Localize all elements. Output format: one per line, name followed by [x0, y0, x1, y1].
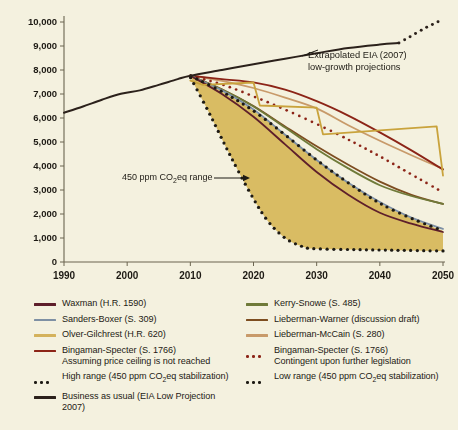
legend-label: Waxman (H.R. 1590) [62, 298, 146, 309]
legend-dot [34, 381, 37, 384]
legend-dot [258, 355, 261, 358]
legend-line-swatch [246, 315, 268, 327]
legend-dotted-swatch [246, 372, 268, 389]
legend-label: High range (450 ppm CO2eq stabilization) [62, 371, 229, 385]
emissions-line-chart [0, 0, 458, 292]
legend-item-lieberman-warner[interactable]: Lieberman-Warner (discussion draft) [246, 314, 456, 326]
legend-line-swatch [34, 315, 56, 327]
legend-label: Lieberman-McCain (S. 280) [274, 329, 384, 340]
legend-label: Business as usual (EIA Low Projection 20… [62, 391, 239, 414]
legend-left-column: Waxman (H.R. 1590)Sanders-Boxer (S. 309)… [34, 298, 239, 417]
emissions-figure: U.S. annual emissions (mmt CO2eq) Extrap… [0, 0, 458, 430]
legend-dotted-swatch [34, 372, 56, 389]
legend-item-olver-gilchrest[interactable]: Olver-Gilchrest (H.R. 620) [34, 329, 239, 341]
range-annotation: 450 ppm CO2eq range [122, 171, 212, 187]
legend-item-sanders-boxer[interactable]: Sanders-Boxer (S. 309) [34, 314, 239, 326]
legend-dot [252, 355, 255, 358]
legend-dot [252, 381, 255, 384]
legend-dot [40, 381, 43, 384]
chart-legend: Waxman (H.R. 1590)Sanders-Boxer (S. 309)… [0, 294, 458, 412]
legend-item-waxman[interactable]: Waxman (H.R. 1590) [34, 298, 239, 310]
legend-dot [246, 381, 249, 384]
annotation-line-1: Extrapolated EIA (2007) [308, 49, 407, 61]
legend-line [34, 334, 56, 337]
legend-dot [258, 381, 261, 384]
legend-item-kerry-snowe[interactable]: Kerry-Snowe (S. 485) [246, 298, 456, 310]
legend-line-swatch [246, 330, 268, 342]
legend-label: Kerry-Snowe (S. 485) [274, 298, 360, 309]
legend-item-bingaman-specter-ceiling[interactable]: Bingaman-Specter (S. 1766)Assuming price… [34, 345, 239, 368]
legend-label: Low range (450 ppm CO2eq stabilization) [274, 371, 439, 385]
legend-item-business-as-usual[interactable]: Business as usual (EIA Low Projection 20… [34, 391, 239, 414]
legend-dotted-swatch [246, 346, 268, 363]
legend-sublabel: Contingent upon further legislation [274, 356, 411, 367]
legend-line [246, 334, 268, 337]
legend-label: Bingaman-Specter (S. 1766)Contingent upo… [274, 345, 411, 368]
annotation-line-2: low-growth projections [308, 61, 407, 73]
legend-label: Sanders-Boxer (S. 309) [62, 314, 156, 325]
legend-line [246, 319, 268, 322]
legend-line [34, 319, 56, 322]
legend-line-swatch [34, 392, 56, 404]
legend-sublabel: Assuming price ceiling is not reached [62, 356, 210, 367]
legend-right-column: Kerry-Snowe (S. 485)Lieberman-Warner (di… [246, 298, 456, 391]
legend-line [34, 396, 56, 399]
legend-line-swatch [34, 330, 56, 342]
legend-item-lieberman-mccain[interactable]: Lieberman-McCain (S. 280) [246, 329, 456, 341]
extrapolated-eia-annotation: Extrapolated EIA (2007) low-growth proje… [308, 49, 407, 73]
legend-item-high-range[interactable]: High range (450 ppm CO2eq stabilization) [34, 371, 239, 388]
legend-label: Lieberman-Warner (discussion draft) [274, 314, 420, 325]
legend-item-bingaman-specter-contingent[interactable]: Bingaman-Specter (S. 1766)Contingent upo… [246, 345, 456, 368]
legend-item-low-range[interactable]: Low range (450 ppm CO2eq stabilization) [246, 371, 456, 388]
legend-dot [46, 381, 49, 384]
legend-dot [246, 355, 249, 358]
legend-line-swatch [34, 299, 56, 311]
legend-line [34, 350, 56, 353]
legend-line-swatch [34, 346, 56, 358]
legend-label: Olver-Gilchrest (H.R. 620) [62, 329, 166, 340]
legend-line [34, 303, 56, 306]
legend-label: Bingaman-Specter (S. 1766)Assuming price… [62, 345, 210, 368]
chart-canvas-holder [0, 0, 458, 296]
plot-area: U.S. annual emissions (mmt CO2eq) Extrap… [0, 0, 458, 292]
legend-line [246, 303, 268, 306]
legend-line-swatch [246, 299, 268, 311]
